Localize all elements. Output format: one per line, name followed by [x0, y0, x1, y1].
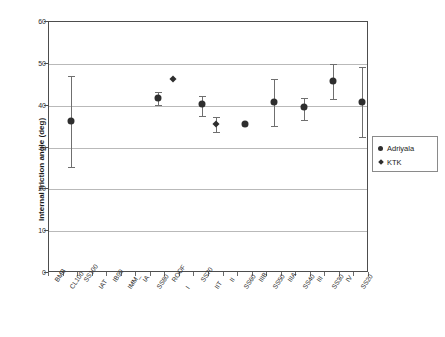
- x-tick-label: IIT: [213, 280, 223, 290]
- y-tick-mark: [44, 188, 48, 189]
- y-tick-mark: [44, 63, 48, 64]
- legend-item-adriyala: Adriyala: [378, 141, 433, 155]
- data-point-circle: [358, 99, 365, 106]
- legend-label: KTK: [387, 158, 402, 167]
- x-tick-label: IA: [141, 274, 150, 283]
- x-tick-label: SS60: [242, 273, 257, 290]
- diamond-marker-icon: [378, 159, 384, 165]
- x-tick-mark: [324, 272, 325, 276]
- error-bar-cap: [330, 64, 337, 65]
- gridline: [49, 64, 367, 65]
- y-tick-label: 20: [26, 185, 46, 192]
- gridline: [49, 231, 367, 232]
- x-tick-label: SS20: [359, 273, 374, 290]
- data-point-circle: [198, 101, 205, 108]
- y-tick-label: 10: [26, 227, 46, 234]
- error-bar-cap: [213, 132, 220, 133]
- error-bar-cap: [213, 117, 220, 118]
- x-tick-mark: [223, 272, 224, 276]
- legend: Adriyala KTK: [372, 136, 438, 172]
- y-tick-label: 0: [26, 269, 46, 276]
- data-point-circle: [271, 98, 278, 105]
- data-point-diamond: [169, 75, 176, 82]
- error-bar-cap: [155, 92, 162, 93]
- x-tick-label: IV: [344, 274, 353, 283]
- y-tick-label: 60: [26, 18, 46, 25]
- x-tick-label: SS30: [330, 273, 345, 290]
- x-tick-label: IIIB: [257, 271, 268, 283]
- error-bar-cap: [199, 96, 206, 97]
- error-bar-cap: [359, 67, 366, 68]
- chart-root: Internal friction angle (deg) 0102030405…: [0, 0, 445, 337]
- legend-item-ktk: KTK: [378, 155, 433, 169]
- x-tick-label: I: [184, 284, 191, 290]
- data-point-circle: [155, 94, 162, 101]
- error-bar-cap: [359, 137, 366, 138]
- x-tick-mark: [106, 272, 107, 276]
- data-point-circle: [300, 103, 307, 110]
- y-tick-mark: [44, 21, 48, 22]
- y-tick-mark: [44, 105, 48, 106]
- x-tick-label: IAT: [97, 278, 108, 290]
- y-tick-mark: [44, 230, 48, 231]
- x-tick-mark: [353, 272, 354, 276]
- x-tick-mark: [48, 272, 49, 276]
- x-tick-label: SS40: [301, 273, 316, 290]
- x-tick-label: II: [228, 276, 236, 283]
- error-bar-cap: [301, 120, 308, 121]
- error-bar-cap: [330, 99, 337, 100]
- error-bar-cap: [68, 76, 75, 77]
- data-point-circle: [67, 118, 74, 125]
- gridline: [49, 106, 367, 107]
- error-bar-cap: [271, 79, 278, 80]
- legend-label: Adriyala: [387, 144, 414, 153]
- x-tick-label: SS80: [155, 273, 170, 290]
- error-bar-cap: [271, 126, 278, 127]
- x-tick-mark: [193, 272, 194, 276]
- error-bar-cap: [68, 167, 75, 168]
- circle-marker-icon: [378, 146, 383, 151]
- x-tick-label: SS50: [271, 273, 286, 290]
- y-tick-mark: [44, 272, 48, 273]
- plot-area: [48, 21, 368, 272]
- x-tick-label: III: [315, 274, 324, 283]
- x-tick-mark: [237, 272, 238, 276]
- data-point-diamond: [213, 121, 220, 128]
- error-bar-cap: [155, 105, 162, 106]
- y-axis: 0102030405060: [20, 0, 46, 337]
- error-bar-cap: [301, 98, 308, 99]
- gridline: [49, 148, 367, 149]
- data-point-circle: [329, 78, 336, 85]
- gridline: [49, 189, 367, 190]
- x-tick-label: CL100: [68, 270, 85, 290]
- error-bar-cap: [199, 116, 206, 117]
- x-tick-label: IMM_: [126, 272, 141, 290]
- y-tick-label: 30: [26, 143, 46, 150]
- data-point-circle: [242, 120, 249, 127]
- y-tick-label: 40: [26, 101, 46, 108]
- y-tick-mark: [44, 147, 48, 148]
- x-tick-mark: [150, 272, 151, 276]
- y-tick-label: 50: [26, 59, 46, 66]
- x-tick-label: IIIA: [286, 271, 297, 283]
